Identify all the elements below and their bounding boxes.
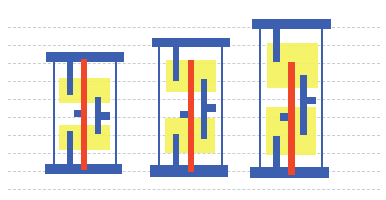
metal-nub-left [180,111,188,118]
metal-nub-right [207,104,216,112]
metal-stub-top [67,62,73,95]
gate [288,62,295,175]
layout-diagram [0,0,386,200]
gate [188,60,194,172]
grid-line [8,153,380,154]
side-line-right [321,29,323,167]
side-line-right [221,47,223,165]
metal-stub-bottom [173,134,179,167]
metal-stub-top [173,47,179,81]
metal-nub-right [307,97,316,104]
side-line-left [158,47,160,165]
metal-nub-left [74,110,81,117]
metal-nub-right [101,112,110,120]
metal-nub-left [280,113,288,121]
gate [81,59,87,170]
grid-line [8,189,380,190]
side-line-left [53,62,55,164]
metal-stub-top [273,29,280,62]
top-rail [252,19,331,29]
side-line-right [115,62,117,164]
metal-vertical-right [300,75,307,135]
side-line-left [259,29,261,167]
top-rail [152,38,230,47]
